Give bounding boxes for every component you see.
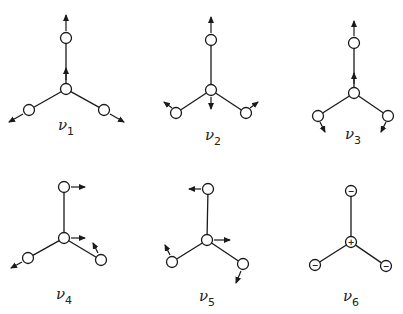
outer-atom-left xyxy=(167,257,178,268)
sign-top: − xyxy=(348,187,355,196)
outer-atom-right xyxy=(99,105,110,116)
central-atom xyxy=(349,88,360,99)
sign-left: − xyxy=(312,261,319,270)
displacement-arrow-icon xyxy=(110,114,124,122)
mode-label: ν xyxy=(345,125,354,143)
mode-nu2: ν2 xyxy=(164,17,258,148)
displacement-arrow-icon xyxy=(250,102,258,108)
bond-right xyxy=(359,96,384,113)
mode-label-subscript: 1 xyxy=(67,125,74,138)
mode-nu6: +−−−ν6 xyxy=(310,186,392,310)
outer-atom-top xyxy=(203,184,214,195)
outer-atom-left xyxy=(23,253,34,264)
bond-left xyxy=(33,241,59,256)
bond-left xyxy=(181,93,207,110)
outer-atom-left xyxy=(313,111,324,122)
outer-atom-top xyxy=(59,182,70,193)
mode-nu4: ν4 xyxy=(11,182,107,308)
outer-atom-left xyxy=(171,108,182,119)
outer-atom-right xyxy=(96,255,107,266)
outer-atom-top xyxy=(206,35,217,46)
outer-atom-top xyxy=(61,33,72,44)
sign-center: + xyxy=(348,238,355,247)
mode-label: ν xyxy=(58,116,67,134)
mode-label: ν xyxy=(56,285,65,303)
outer-atom-right xyxy=(383,111,394,122)
outer-atom-right xyxy=(238,259,249,270)
bond-left xyxy=(177,243,203,259)
displacement-arrow-icon xyxy=(164,102,172,108)
bond-top xyxy=(207,194,208,234)
displacement-arrow-icon xyxy=(9,114,23,122)
mode-label: ν xyxy=(205,126,214,144)
mode-label: ν xyxy=(343,287,352,305)
bond-left xyxy=(320,245,347,262)
bond-right xyxy=(356,245,382,263)
mode-label-subscript: 3 xyxy=(354,134,361,147)
mode-label-subscript: 4 xyxy=(65,294,72,307)
mode-label-subscript: 2 xyxy=(214,135,221,148)
mode-nu3: ν3 xyxy=(313,21,394,147)
outer-atom-top xyxy=(349,38,360,49)
displacement-arrow-icon xyxy=(320,122,325,132)
bond-right xyxy=(212,243,239,261)
mode-label-subscript: 5 xyxy=(208,296,215,309)
central-atom xyxy=(61,84,72,95)
central-atom xyxy=(202,235,213,246)
mode-label: ν xyxy=(199,287,208,305)
central-atom xyxy=(206,85,217,96)
bond-left xyxy=(34,92,61,108)
vibrational-modes-diagram: ν1ν2ν3ν4ν5+−−−ν6 xyxy=(0,0,403,314)
outer-atom-left xyxy=(24,105,35,116)
mode-label-subscript: 6 xyxy=(352,296,359,309)
mode-nu5: ν5 xyxy=(165,184,249,310)
central-atom xyxy=(59,233,70,244)
displacement-arrow-icon xyxy=(11,262,22,268)
mode-nu1: ν1 xyxy=(9,15,124,138)
bond-right xyxy=(216,93,242,110)
bond-right xyxy=(71,92,99,108)
bond-left xyxy=(323,96,350,113)
displacement-arrow-icon xyxy=(93,243,98,253)
displacement-arrow-icon xyxy=(165,245,170,255)
outer-atom-right xyxy=(241,108,252,119)
displacement-arrow-icon xyxy=(381,122,386,132)
sign-right: − xyxy=(383,262,390,271)
bond-right xyxy=(69,241,97,257)
displacement-arrow-icon xyxy=(236,271,241,283)
